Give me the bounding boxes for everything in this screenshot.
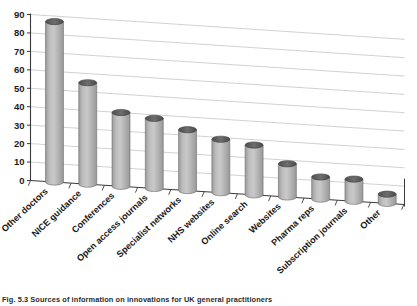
- chart-canvas: 9080706050403020100 Other doctorsNICE gu…: [0, 0, 417, 292]
- y-tick-label: 80: [14, 27, 25, 38]
- bar-series: [45, 18, 396, 206]
- y-tick-label: 0: [19, 175, 24, 186]
- y-tick-label: 50: [14, 83, 25, 94]
- y-tick-label: 70: [14, 46, 25, 57]
- bar-cylinder: [278, 161, 296, 200]
- x-tick-label: Specialist networks: [115, 195, 183, 260]
- bar-cylinder: [378, 191, 396, 206]
- y-tick-label: 30: [14, 120, 25, 131]
- figure-caption-number: Fig. 5.3: [2, 295, 28, 304]
- y-tick-label: 10: [14, 156, 25, 167]
- y-tick-label: 20: [14, 138, 25, 149]
- x-tick-label: Websites: [247, 201, 283, 235]
- bar-cylinder: [245, 142, 263, 198]
- y-tick-label: 40: [14, 101, 25, 112]
- figure-caption-text: Sources of information on innovations fo…: [30, 295, 272, 304]
- x-tick-label: Other: [358, 207, 383, 231]
- bar-cylinder: [179, 127, 197, 194]
- figure-container: 9080706050403020100 Other doctorsNICE gu…: [0, 0, 417, 306]
- y-tick-label: 60: [14, 64, 25, 75]
- y-axis-ticklabels: 9080706050403020100: [14, 9, 25, 186]
- bar-cylinder: [212, 136, 230, 196]
- bar-cylinder: [312, 174, 330, 202]
- bar-cylinder: [112, 109, 130, 189]
- y-axis: [27, 14, 31, 181]
- bar-cylinder: [345, 176, 363, 204]
- bar-chart: 9080706050403020100 Other doctorsNICE gu…: [0, 0, 417, 290]
- bar-cylinder: [45, 18, 63, 185]
- x-tick-label: Open access journals: [75, 193, 150, 264]
- bar-cylinder: [79, 80, 97, 188]
- y-tick-label: 90: [14, 9, 25, 20]
- figure-caption: Fig. 5.3Sources of information on innova…: [2, 295, 415, 304]
- x-tick-label: Subscription journals: [275, 205, 349, 275]
- bar-cylinder: [145, 115, 163, 191]
